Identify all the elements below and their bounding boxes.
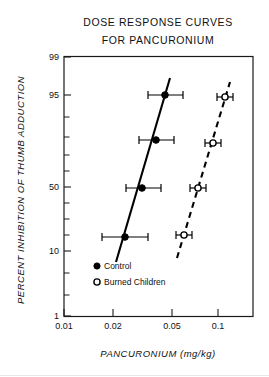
legend-label-burned-children: Burned Children bbox=[104, 277, 166, 287]
control-error-bars bbox=[102, 91, 183, 241]
x-tick-label-0-01: 0.01 bbox=[55, 321, 73, 331]
series-burned-children bbox=[176, 82, 233, 258]
chart-title-line-1: DOSE RESPONSE CURVES bbox=[83, 16, 233, 28]
legend-marker-open-circle-icon bbox=[94, 279, 100, 285]
dose-response-chart: DOSE RESPONSE CURVES FOR PANCURONIUM 99 … bbox=[0, 0, 269, 377]
y-tick-label-95: 95 bbox=[49, 90, 59, 100]
y-axis-label: PERCENT INHIBITION OF THUMB ADDUCTION bbox=[15, 76, 26, 304]
data-point bbox=[162, 92, 169, 99]
legend-marker-filled-circle-icon bbox=[94, 263, 100, 269]
legend-label-control: Control bbox=[104, 261, 132, 271]
y-tick-label-50: 50 bbox=[49, 182, 59, 192]
data-point bbox=[139, 185, 146, 192]
y-tick-label-99: 99 bbox=[49, 52, 59, 62]
x-axis-ticks bbox=[64, 309, 218, 316]
y-axis-ticks bbox=[64, 57, 71, 316]
x-tick-label-0-1: 0.1 bbox=[212, 321, 225, 331]
data-point bbox=[181, 232, 187, 238]
data-point bbox=[153, 137, 160, 144]
data-point bbox=[122, 234, 129, 241]
x-tick-label-0-05: 0.05 bbox=[163, 321, 181, 331]
chart-legend: Control Burned Children bbox=[94, 261, 166, 287]
chart-canvas: DOSE RESPONSE CURVES FOR PANCURONIUM 99 … bbox=[0, 0, 269, 377]
data-point bbox=[222, 94, 228, 100]
series-control bbox=[102, 78, 183, 262]
y-tick-label-1: 1 bbox=[54, 311, 59, 321]
x-tick-label-0-02: 0.02 bbox=[104, 321, 122, 331]
chart-title-line-2: FOR PANCURONIUM bbox=[102, 34, 215, 46]
x-axis-label: PANCURONIUM (mg/kg) bbox=[100, 348, 215, 359]
data-point bbox=[210, 140, 216, 146]
y-tick-label-10: 10 bbox=[49, 246, 59, 256]
data-point bbox=[195, 185, 201, 191]
